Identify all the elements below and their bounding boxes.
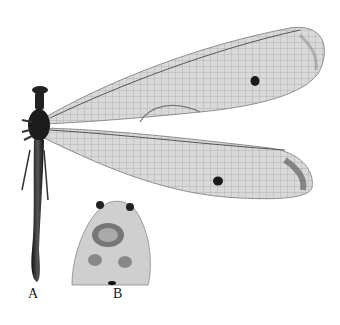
panel-label-b: B xyxy=(113,286,122,302)
panel-label-a: A xyxy=(28,286,38,302)
specimen-figure: A B xyxy=(0,0,340,325)
hindwing-spot xyxy=(213,177,223,186)
forewing xyxy=(44,27,324,124)
head-detail-panel-b xyxy=(72,201,150,285)
hindwing xyxy=(44,128,312,199)
forewing-spot xyxy=(251,76,260,86)
specimen-illustration xyxy=(0,0,340,325)
specimen-body xyxy=(22,86,50,282)
